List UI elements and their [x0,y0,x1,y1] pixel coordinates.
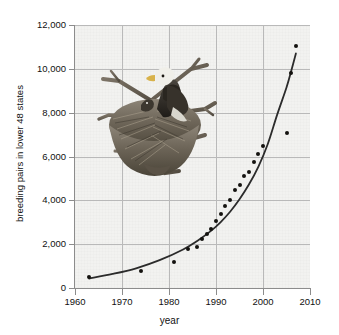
y-tick-mark [69,244,75,245]
x-tick-mark [310,289,311,295]
y-tick-mark [69,113,75,114]
bald-eagle-on-nest-photo [95,45,217,177]
data-point [139,269,143,273]
x-axis-title: year [0,315,339,326]
y-tick-mark [69,200,75,201]
x-tick-mark [216,289,217,295]
x-tick-mark [122,289,123,295]
x-tick-label: 1990 [205,297,226,307]
y-tick-mark [69,25,75,26]
data-point [205,232,209,236]
y-tick-label: 10,000 [37,64,66,74]
x-tick-label: 1970 [111,297,132,307]
x-tick-mark [169,289,170,295]
y-tick-mark [69,69,75,70]
data-point [238,183,242,187]
chart-figure: 02,0004,0006,0008,00010,00012,000 196019… [0,0,339,335]
data-point [172,260,176,264]
x-tick-label: 1980 [158,297,179,307]
y-tick-label: 8,000 [42,108,66,118]
data-point [285,131,289,135]
y-tick-label: 2,000 [42,239,66,249]
y-tick-label: 12,000 [37,20,66,30]
x-tick-mark [75,289,76,295]
y-tick-mark [69,157,75,158]
data-point [252,160,256,164]
data-point [219,212,223,216]
x-tick-label: 2010 [299,297,320,307]
data-point [200,237,204,241]
y-tick-label: 4,000 [42,195,66,205]
data-point [294,44,298,48]
x-tick-label: 2000 [252,297,273,307]
x-tick-label: 1960 [64,297,85,307]
y-tick-label: 6,000 [42,152,66,162]
y-axis-title: breeding pairs in lower 48 states [14,54,25,254]
y-tick-label: 0 [61,283,66,293]
plot-area [75,25,310,288]
x-tick-mark [263,289,264,295]
data-point [247,170,251,174]
x-axis-line [74,288,311,289]
